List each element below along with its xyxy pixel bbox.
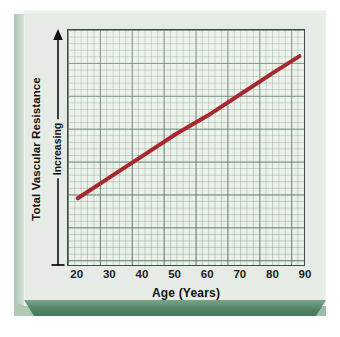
card-bottom-edge: [24, 300, 326, 316]
x-axis-tick-60: 60: [201, 268, 214, 280]
figure-root: Total Vascular Resistance Increasing 203…: [0, 0, 340, 337]
x-axis-tick-labels: 2030405060708090: [67, 268, 305, 284]
y-axis-direction-text: Increasing: [51, 120, 63, 179]
x-axis-tick-80: 80: [266, 268, 279, 280]
plot-area: [67, 29, 305, 266]
x-axis-tick-90: 90: [299, 268, 312, 280]
x-axis-tick-40: 40: [136, 268, 149, 280]
x-axis-tick-30: 30: [103, 268, 116, 280]
trend-line-series: [68, 30, 305, 266]
plot-area-wrapper: [67, 29, 305, 266]
x-axis-title: Age (Years): [67, 286, 305, 300]
y-axis-group: Total Vascular Resistance Increasing: [34, 29, 66, 269]
x-axis-tick-50: 50: [168, 268, 181, 280]
y-axis-direction-label: Increasing: [48, 29, 66, 269]
card-top-edge: [24, 10, 326, 15]
x-axis-tick-70: 70: [233, 268, 246, 280]
y-axis-title: Total Vascular Resistance: [28, 29, 44, 269]
y-axis-title-text: Total Vascular Resistance: [30, 77, 42, 221]
x-axis-tick-20: 20: [70, 268, 83, 280]
